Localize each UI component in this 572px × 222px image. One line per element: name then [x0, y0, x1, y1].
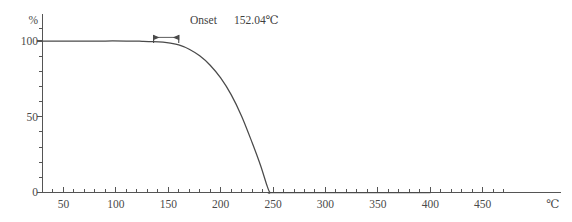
x-tick-label: 200	[212, 198, 230, 210]
x-tick-label: 350	[369, 198, 387, 210]
tga-chart: 0 50 100 % 50100150200250300350400450 ℃ …	[0, 0, 572, 222]
x-tick-label: 100	[107, 198, 125, 210]
x-tick-label: 250	[264, 198, 282, 210]
x-tick-label: 400	[422, 198, 440, 210]
y-tick-label-0: 0	[32, 186, 38, 198]
y-tick-label-50: 50	[27, 111, 39, 123]
x-tick-label: 150	[160, 198, 178, 210]
x-tick-label: 50	[58, 198, 70, 210]
x-axis-tick-labels: 50100150200250300350400450	[58, 198, 492, 210]
chart-background	[0, 0, 572, 222]
onset-annotation-label: Onset	[190, 14, 218, 26]
y-tick-label-100: 100	[21, 35, 39, 47]
onset-annotation-value: 152.04℃	[234, 14, 279, 26]
chart-canvas: 0 50 100 % 50100150200250300350400450 ℃ …	[0, 0, 572, 222]
x-tick-label: 450	[474, 198, 492, 210]
x-tick-label: 300	[317, 198, 335, 210]
x-axis-unit-label: ℃	[547, 198, 560, 210]
y-axis-unit-label: %	[28, 14, 38, 26]
onset-annotation: Onset 152.04℃	[190, 14, 279, 26]
